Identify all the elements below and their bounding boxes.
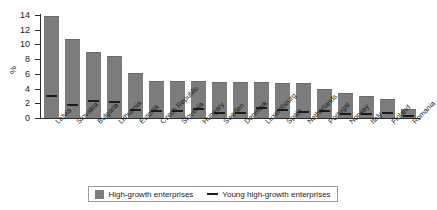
y-axis-tick xyxy=(35,118,40,119)
bar-slot xyxy=(149,15,165,118)
y-axis-tick xyxy=(35,103,40,104)
y-axis-tick-label: 0 xyxy=(6,114,30,123)
legend-label-young-high-growth: Young high-growth enterprises xyxy=(222,190,330,199)
x-axis-category-labels: LatviaSlovakiaBulgariaLithuaniaEstoniaCz… xyxy=(41,120,419,176)
y-axis-tick xyxy=(35,74,40,75)
y-axis-tick-label: 8 xyxy=(6,55,30,64)
bar-slot xyxy=(401,15,417,118)
y-axis-tick xyxy=(35,89,40,90)
young-enterprise-marker xyxy=(67,104,78,106)
y-axis-tick-label: 2 xyxy=(6,99,30,108)
y-axis-tick xyxy=(35,15,40,16)
legend-label-high-growth: High-growth enterprises xyxy=(108,190,193,199)
y-axis-tick-label: 12 xyxy=(6,26,30,35)
bar-slot xyxy=(296,15,312,118)
y-axis-tick-label: 10 xyxy=(6,40,30,49)
bar-slot xyxy=(65,15,81,118)
y-axis-tick xyxy=(35,30,40,31)
y-axis-tick-label: 14 xyxy=(6,11,30,20)
chart-legend: High-growth enterprises Young high-growt… xyxy=(88,186,338,202)
legend-item-young-high-growth: Young high-growth enterprises xyxy=(207,190,330,199)
bar-slot xyxy=(44,15,60,118)
y-axis-tick-label: 6 xyxy=(6,70,30,79)
legend-item-high-growth: High-growth enterprises xyxy=(95,190,193,199)
y-axis-tick xyxy=(35,59,40,60)
young-enterprise-marker xyxy=(46,95,57,97)
young-enterprise-marker xyxy=(382,112,393,114)
bar-slot xyxy=(380,15,396,118)
legend-dash-line-icon xyxy=(207,193,218,195)
legend-square-swatch-icon xyxy=(95,190,104,199)
y-axis-tick xyxy=(35,44,40,45)
bar xyxy=(44,16,60,118)
bar-slot xyxy=(359,15,375,118)
y-axis-tick-label: 4 xyxy=(6,85,30,94)
